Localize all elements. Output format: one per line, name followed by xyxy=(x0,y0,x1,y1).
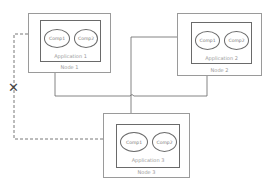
node-1[interactable]: Comp1 Comp2 Application 1 Node 1 xyxy=(28,13,111,73)
deployment-diagram: ✕ Comp1 Comp2 Application 1 Node 1 Comp1… xyxy=(0,0,274,191)
comp-label: Comp1 xyxy=(49,36,65,41)
application-1[interactable]: Comp1 Comp2 Application 1 xyxy=(40,20,101,62)
application-2[interactable]: Comp1 Comp2 Application 2 xyxy=(191,22,252,64)
node-3[interactable]: Comp1 Comp2 Application 3 Node 3 xyxy=(103,113,190,178)
application-label: Application 1 xyxy=(41,53,100,59)
comp-label: Comp2 xyxy=(78,36,94,41)
comp-label: Comp2 xyxy=(157,140,173,145)
node3-comp2[interactable]: Comp2 xyxy=(152,132,177,152)
wire-mid-to-node2 xyxy=(134,82,207,96)
node3-comp1[interactable]: Comp1 xyxy=(120,132,148,152)
comp-label: Comp1 xyxy=(200,38,216,43)
node-2[interactable]: Comp1 Comp2 Application 2 Node 2 xyxy=(177,13,262,76)
node1-comp1[interactable]: Comp1 xyxy=(44,29,70,48)
wire-hop xyxy=(130,95,134,97)
broken-connection-x-icon: ✕ xyxy=(8,81,19,94)
node-label: Node 3 xyxy=(104,169,189,175)
node2-comp1[interactable]: Comp1 xyxy=(195,31,220,50)
comp-label: Comp2 xyxy=(229,38,245,43)
application-label: Application 3 xyxy=(117,157,179,163)
node1-comp2[interactable]: Comp2 xyxy=(74,29,98,48)
application-label: Application 2 xyxy=(192,55,251,61)
application-3[interactable]: Comp1 Comp2 Application 3 xyxy=(116,124,180,168)
node-label: Node 2 xyxy=(178,67,261,73)
comp-label: Comp1 xyxy=(126,140,142,145)
node2-comp2[interactable]: Comp2 xyxy=(224,31,249,50)
node-label: Node 1 xyxy=(29,64,110,70)
